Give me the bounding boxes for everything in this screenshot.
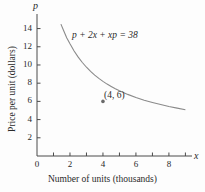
x-axis-symbol: x: [194, 150, 198, 161]
x-tick-label: 6: [126, 159, 146, 169]
x-tick-label: 8: [159, 159, 179, 169]
y-tick-label: 14: [0, 23, 32, 33]
y-axis-symbol: p: [33, 0, 38, 11]
point-annotation-label: (4, 6): [104, 90, 125, 100]
price-demand-chart: Price per unit (dollars) Number of units…: [0, 0, 205, 192]
equation-annotation: p + 2x + xp = 38: [72, 30, 138, 40]
x-axis-title: Number of units (thousands): [0, 174, 205, 184]
y-tick-label: 6: [0, 95, 32, 105]
x-axis-ticks: [53, 153, 185, 157]
y-tick-label: 2: [0, 132, 32, 142]
y-axis-ticks: [37, 29, 41, 138]
x-tick-label: 0: [27, 159, 47, 169]
y-tick-label: 8: [0, 77, 32, 87]
y-tick-label: 12: [0, 41, 32, 51]
data-point-marker: [101, 100, 105, 104]
y-tick-label: 10: [0, 59, 32, 69]
x-tick-label: 4: [93, 159, 113, 169]
y-tick-label: 4: [0, 114, 32, 124]
x-tick-label: 2: [60, 159, 80, 169]
